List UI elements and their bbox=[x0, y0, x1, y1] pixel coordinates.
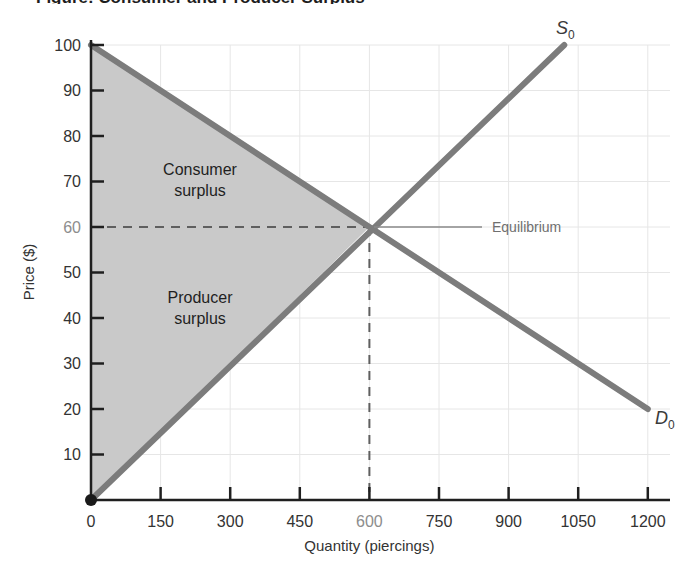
y-tick-30: 30 bbox=[63, 355, 81, 372]
consumer-surplus-label-line2: surplus bbox=[174, 182, 226, 199]
supply-curve-label-letter: S bbox=[556, 18, 568, 38]
y-axis-title: Price ($) bbox=[20, 244, 37, 301]
y-tick-100: 100 bbox=[54, 37, 81, 54]
x-axis-title: Quantity (piercings) bbox=[304, 537, 434, 554]
supply-curve-label: S0 bbox=[556, 18, 575, 42]
y-tick-80: 80 bbox=[63, 128, 81, 145]
y-tick-60: 60 bbox=[63, 219, 81, 236]
producer-surplus-label-line2: surplus bbox=[174, 310, 226, 327]
demand-curve-label-subscript: 0 bbox=[668, 418, 675, 432]
x-tick-0: 0 bbox=[87, 513, 96, 530]
y-tick-10: 10 bbox=[63, 446, 81, 463]
consumer-surplus-label-line1: Consumer bbox=[163, 161, 237, 178]
producer-surplus-label-line1: Producer bbox=[168, 289, 234, 306]
equilibrium-annotation: Equilibrium bbox=[374, 219, 561, 235]
x-axis-tick-labels: 0 150 300 450 600 750 900 1050 1200 bbox=[87, 513, 666, 530]
demand-curve-label: D0 bbox=[655, 408, 675, 432]
x-tick-300: 300 bbox=[217, 513, 244, 530]
x-tick-1200: 1200 bbox=[630, 513, 666, 530]
y-tick-70: 70 bbox=[63, 173, 81, 190]
origin-point bbox=[85, 494, 97, 506]
x-tick-750: 750 bbox=[426, 513, 453, 530]
y-axis-tick-labels: 100 90 80 70 60 50 40 30 20 10 bbox=[54, 37, 81, 463]
supply-demand-chart: 100 90 80 70 60 50 40 30 20 10 0 150 300… bbox=[0, 0, 694, 570]
x-tick-600: 600 bbox=[356, 513, 383, 530]
y-tick-20: 20 bbox=[63, 401, 81, 418]
x-tick-150: 150 bbox=[147, 513, 174, 530]
y-tick-40: 40 bbox=[63, 310, 81, 327]
x-tick-900: 900 bbox=[495, 513, 522, 530]
y-tick-90: 90 bbox=[63, 82, 81, 99]
figure-container: Figure: Consumer and Producer Surplus bbox=[0, 0, 694, 570]
x-tick-450: 450 bbox=[286, 513, 313, 530]
x-tick-1050: 1050 bbox=[560, 513, 596, 530]
equilibrium-label: Equilibrium bbox=[492, 219, 561, 235]
y-tick-50: 50 bbox=[63, 264, 81, 281]
x-axis-ticks bbox=[161, 487, 648, 500]
demand-curve-label-letter: D bbox=[655, 408, 668, 428]
supply-curve-label-subscript: 0 bbox=[568, 28, 575, 42]
